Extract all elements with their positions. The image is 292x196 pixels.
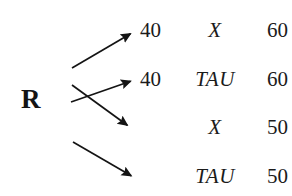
row-symbol: X	[184, 20, 246, 41]
mapping-diagram: R 40 X 60 40 TAU 60 X 50 TAU 50	[0, 0, 292, 196]
mapping-row: TAU 50	[140, 163, 288, 189]
mapping-row: 40 TAU 60	[140, 66, 288, 92]
row-right-value: 60	[246, 20, 288, 41]
arrow-to-row-1	[72, 34, 131, 68]
arrow-to-row-3	[72, 85, 127, 125]
row-left-value: 40	[140, 20, 184, 41]
row-right-value: 50	[246, 117, 288, 138]
row-right-value: 50	[246, 166, 288, 187]
row-symbol: TAU	[184, 166, 246, 187]
arrow-to-row-4	[73, 142, 131, 176]
row-symbol: X	[184, 117, 246, 138]
row-symbol: TAU	[184, 69, 246, 90]
mapping-row: X 50	[140, 114, 288, 140]
row-right-value: 60	[246, 69, 288, 90]
row-left-value: 40	[140, 69, 184, 90]
mapping-row: 40 X 60	[140, 17, 288, 43]
